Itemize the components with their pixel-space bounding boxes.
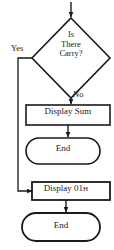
edge-label-no: No [73, 89, 83, 99]
edge-label-yes: Yes [11, 43, 23, 53]
flowchart-shapes-layer [0, 0, 114, 250]
end-top-shape [26, 138, 100, 164]
display-01h-box-shape [32, 182, 110, 200]
flowchart-diagram: Is There Carry? Yes No Display Sum End D… [0, 0, 114, 250]
display-sum-box-shape [26, 105, 110, 125]
decision-diamond-shape [32, 18, 110, 98]
end-bottom-shape [22, 213, 100, 241]
